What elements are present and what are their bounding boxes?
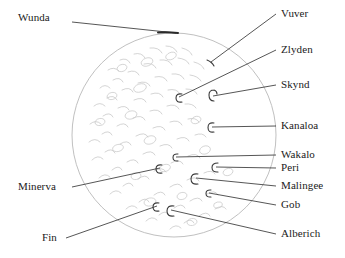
label-minerva: Minerva bbox=[18, 181, 56, 192]
label-alberich: Alberich bbox=[281, 228, 320, 239]
label-malingee: Malingee bbox=[281, 180, 323, 191]
label-skynd: Skynd bbox=[281, 79, 310, 90]
leader-line-wunda bbox=[72, 22, 176, 33]
label-fin: Fin bbox=[42, 232, 57, 243]
label-zlyden: Zlyden bbox=[281, 44, 313, 55]
label-kanaloa: Kanaloa bbox=[281, 120, 318, 131]
label-wakalo: Wakalo bbox=[281, 149, 315, 160]
label-vuver: Vuver bbox=[281, 8, 308, 19]
moon-feature-map-figure: Wunda Vuver Zlyden Skynd Kanaloa Wakalo … bbox=[0, 0, 345, 258]
label-wunda: Wunda bbox=[18, 12, 50, 23]
label-gob: Gob bbox=[281, 199, 300, 210]
label-peri: Peri bbox=[281, 162, 299, 173]
